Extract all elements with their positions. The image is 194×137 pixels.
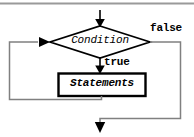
flowchart-canvas: Condition Statements false true bbox=[0, 0, 194, 137]
flowchart-svg bbox=[0, 0, 194, 137]
condition-diamond bbox=[50, 26, 150, 58]
exit-arrowhead-icon bbox=[95, 122, 105, 133]
statements-rect bbox=[59, 74, 146, 97]
loop-back-arrowhead-icon bbox=[39, 37, 50, 47]
